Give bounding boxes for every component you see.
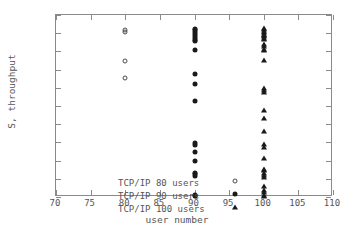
y-axis-label: S, throughput <box>6 37 17 147</box>
x-tick-mark <box>298 190 299 195</box>
x-tick-label: 80 <box>119 199 130 208</box>
y-tick-mark <box>56 106 61 107</box>
legend-marker-glyph <box>233 192 238 197</box>
data-point <box>123 75 128 80</box>
y-tick-mark <box>326 51 331 52</box>
y-tick-mark <box>326 33 331 34</box>
data-point <box>123 30 128 35</box>
scatter-plot-figure: S, throughput TCP/IP 80 usersTCP/IP 90 u… <box>0 0 354 232</box>
x-tick-label: 95 <box>223 199 234 208</box>
y-tick-mark <box>326 161 331 162</box>
x-tick-mark <box>195 15 196 20</box>
data-point <box>261 174 267 179</box>
data-point <box>192 149 197 154</box>
x-tick-label: 110 <box>324 199 340 208</box>
legend-marker-circle-open <box>230 181 240 182</box>
y-tick-mark <box>56 179 61 180</box>
x-tick-mark <box>91 190 92 195</box>
y-tick-mark <box>56 33 61 34</box>
y-tick-mark <box>56 70 61 71</box>
x-tick-mark <box>91 15 92 20</box>
legend-marker-circle-filled <box>230 194 240 195</box>
y-tick-mark <box>326 179 331 180</box>
plot-area: TCP/IP 80 usersTCP/IP 90 usersTCP/IP 100… <box>55 14 332 196</box>
y-tick-mark <box>326 70 331 71</box>
y-tick-mark <box>56 51 61 52</box>
data-point <box>192 158 197 163</box>
data-point <box>192 72 197 77</box>
y-tick-mark <box>326 106 331 107</box>
x-tick-mark <box>56 15 57 20</box>
x-tick-mark <box>56 190 57 195</box>
data-point <box>261 129 267 134</box>
y-tick-mark <box>56 161 61 162</box>
y-tick-mark <box>56 142 61 143</box>
x-tick-label: 75 <box>84 199 95 208</box>
legend-label: TCP/IP 80 users <box>118 177 199 190</box>
y-tick-mark <box>326 142 331 143</box>
data-point <box>261 155 267 160</box>
x-tick-label: 105 <box>289 199 305 208</box>
data-point <box>192 143 197 148</box>
data-point <box>192 47 197 52</box>
y-tick-mark <box>56 88 61 89</box>
data-point <box>192 98 197 103</box>
legend-marker-glyph <box>233 179 238 184</box>
y-tick-mark <box>326 88 331 89</box>
x-tick-label: 85 <box>153 199 164 208</box>
data-point <box>192 82 197 87</box>
x-axis-label: user number <box>0 214 354 225</box>
x-tick-mark <box>229 15 230 20</box>
x-tick-mark <box>333 15 334 20</box>
y-tick-mark <box>56 124 61 125</box>
x-tick-mark <box>125 15 126 20</box>
data-point <box>192 39 197 44</box>
data-point <box>123 59 128 64</box>
data-point <box>261 48 267 53</box>
data-point <box>261 107 267 112</box>
x-tick-mark <box>333 190 334 195</box>
x-tick-label: 70 <box>50 199 61 208</box>
data-point <box>261 145 267 150</box>
x-tick-mark <box>298 15 299 20</box>
x-tick-mark <box>264 15 265 20</box>
data-point <box>261 57 267 62</box>
data-point <box>261 115 267 120</box>
x-tick-label: 90 <box>188 199 199 208</box>
data-point <box>261 89 267 94</box>
x-tick-mark <box>160 15 161 20</box>
y-tick-mark <box>326 15 331 16</box>
x-tick-label: 100 <box>255 199 271 208</box>
y-tick-mark <box>326 124 331 125</box>
